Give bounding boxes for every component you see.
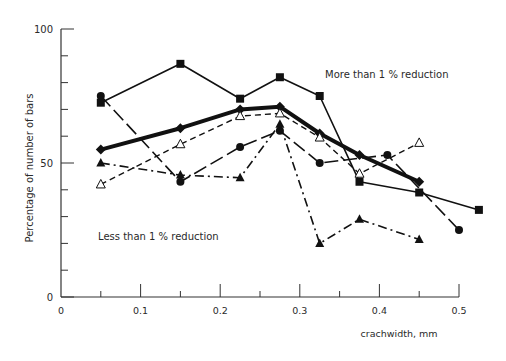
- data-point-square-filled: [356, 178, 364, 186]
- data-point-triangle-filled: [315, 238, 324, 247]
- annotation-less-than: Less than 1 % reduction: [98, 231, 219, 242]
- series-layer: [96, 60, 483, 247]
- annotation-more-than: More than 1 % reduction: [325, 69, 448, 80]
- x-tick-labels: 00.10.20.30.40.5: [58, 305, 467, 316]
- y-tick-label: 0: [47, 292, 53, 303]
- data-point-square-filled: [276, 73, 284, 81]
- data-point-square-filled: [415, 188, 423, 196]
- y-axis-label: Percentage of number of bars: [24, 93, 35, 242]
- x-tick-label: 0.1: [133, 305, 148, 316]
- line-chart: 050100 00.10.20.30.40.5 Percentage of nu…: [0, 0, 506, 361]
- series-line: [101, 113, 419, 184]
- series-open-triangles: [96, 108, 423, 188]
- data-point-square-filled: [475, 206, 483, 214]
- data-point-circle-filled: [455, 226, 463, 234]
- data-point-circle-filled: [316, 159, 324, 167]
- x-ticks: [101, 284, 459, 297]
- data-point-circle-filled: [97, 92, 105, 100]
- data-point-square-filled: [316, 92, 324, 100]
- data-point-triangle-filled: [275, 119, 284, 128]
- y-ticks: [61, 29, 74, 297]
- data-point-diamond-filled: [175, 123, 185, 133]
- y-tick-label: 50: [40, 158, 53, 169]
- data-point-diamond-filled: [96, 145, 106, 155]
- data-point-square-filled: [236, 95, 244, 103]
- data-point-circle-filled: [236, 143, 244, 151]
- series-line: [101, 64, 479, 210]
- series-line: [101, 107, 419, 182]
- data-point-triangle-open: [415, 138, 424, 147]
- x-tick-label: 0: [58, 305, 64, 316]
- data-point-triangle-open: [96, 179, 105, 188]
- x-tick-label: 0.4: [372, 305, 387, 316]
- x-tick-label: 0.5: [451, 305, 466, 316]
- x-tick-label: 0.2: [213, 305, 228, 316]
- data-point-circle-filled: [176, 178, 184, 186]
- y-tick-labels: 050100: [34, 24, 53, 303]
- data-point-triangle-filled: [96, 158, 105, 167]
- x-tick-label: 0.3: [292, 305, 307, 316]
- y-tick-label: 100: [34, 24, 53, 35]
- data-point-square-filled: [176, 60, 184, 68]
- data-point-circle-filled: [383, 151, 391, 159]
- data-point-triangle-filled: [355, 214, 364, 223]
- x-axis-label: crachwidth, mm: [361, 328, 438, 339]
